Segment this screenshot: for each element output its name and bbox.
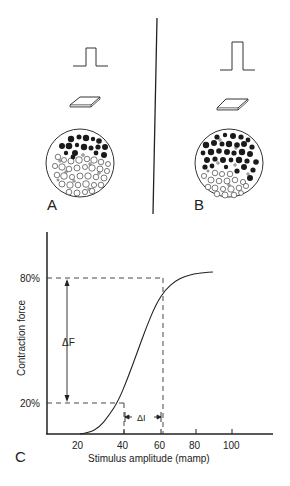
- inactive-fiber: [82, 154, 85, 157]
- active-fiber: [81, 144, 87, 150]
- active-fiber: [208, 149, 214, 155]
- inactive-fiber: [59, 164, 65, 170]
- inactive-fiber: [239, 191, 244, 196]
- inactive-fiber: [85, 173, 91, 179]
- active-fiber: [68, 136, 74, 142]
- inactive-fiber: [69, 174, 74, 179]
- inactive-fiber: [75, 182, 81, 188]
- inactive-fiber: [61, 173, 68, 180]
- active-fiber: [91, 137, 95, 141]
- active-fiber: [241, 164, 247, 170]
- inactive-fiber: [212, 170, 218, 176]
- inactive-fiber: [77, 173, 83, 179]
- active-fiber: [95, 144, 100, 149]
- stimulus-pulse-icon: [220, 42, 255, 70]
- active-fiber: [94, 151, 99, 156]
- x-tick-label-40: 40: [117, 440, 129, 451]
- inactive-fiber: [219, 171, 224, 176]
- inactive-fiber: [234, 164, 236, 166]
- inactive-fiber: [74, 190, 80, 196]
- inactive-fiber: [231, 192, 237, 198]
- inactive-fiber: [55, 154, 61, 160]
- inactive-fiber: [212, 185, 218, 191]
- inactive-fiber: [216, 178, 222, 184]
- active-fiber: [210, 164, 215, 169]
- inactive-fiber: [57, 179, 59, 181]
- inactive-fiber: [214, 191, 220, 197]
- panel-divider: [153, 18, 157, 214]
- muscle-recruitment-figure: A B 20 40 60 80 100 Stimulus amplitude (…: [0, 0, 290, 486]
- panel-c-chart: 20 40 60 80 100 Stimulus amplitude (mamp…: [15, 232, 273, 465]
- active-fiber: [77, 135, 82, 140]
- active-fiber: [226, 141, 232, 147]
- y-tick-label-80: 80%: [20, 273, 40, 284]
- active-fiber: [59, 143, 65, 149]
- electrode-icon: [217, 99, 248, 110]
- inactive-fiber: [243, 183, 248, 188]
- active-fiber: [230, 133, 236, 139]
- inactive-fiber: [201, 173, 206, 178]
- inactive-fiber: [66, 189, 72, 195]
- inactive-fiber: [217, 162, 219, 164]
- inactive-fiber: [88, 188, 90, 190]
- active-fiber: [236, 157, 242, 163]
- x-tick-label-100: 100: [223, 440, 240, 451]
- force-curve: [80, 272, 213, 434]
- active-fiber: [253, 159, 259, 165]
- inactive-fiber: [89, 165, 95, 171]
- active-fiber: [204, 157, 210, 163]
- inactive-fiber: [89, 163, 91, 165]
- active-fiber: [247, 175, 253, 181]
- active-fiber: [216, 148, 222, 154]
- active-fiber: [202, 164, 207, 169]
- active-fiber: [71, 155, 76, 160]
- stimulus-pulse-icon: [73, 48, 108, 66]
- active-fiber: [244, 158, 249, 163]
- y-axis-title: Contraction force: [16, 299, 27, 376]
- y-tick-label-20: 20%: [20, 398, 40, 409]
- active-fiber: [75, 143, 79, 147]
- active-fiber: [220, 142, 225, 147]
- muscle-cross-section-a: [46, 129, 114, 197]
- inactive-fiber: [227, 171, 233, 177]
- inactive-fiber: [76, 157, 83, 164]
- panel-label-b: B: [194, 196, 204, 213]
- active-fiber: [224, 149, 230, 155]
- inactive-fiber: [232, 177, 238, 183]
- inactive-fiber: [208, 177, 214, 183]
- panel-label-c: C: [15, 448, 26, 465]
- inactive-fiber: [91, 182, 96, 187]
- inactive-fiber: [67, 182, 73, 188]
- active-fiber: [241, 141, 247, 147]
- inactive-fiber: [54, 172, 60, 178]
- inactive-fiber: [205, 184, 211, 190]
- inactive-fiber: [207, 170, 209, 172]
- inactive-fiber: [91, 157, 97, 163]
- active-fiber: [249, 144, 254, 149]
- inactive-fiber: [247, 173, 249, 175]
- inactive-fiber: [228, 184, 230, 186]
- x-tick-label-20: 20: [72, 440, 84, 451]
- inactive-fiber: [74, 165, 80, 171]
- active-fiber: [203, 142, 209, 148]
- active-fiber: [211, 140, 217, 146]
- active-fiber: [234, 168, 239, 173]
- active-fiber: [89, 146, 94, 151]
- inactive-fiber: [84, 156, 90, 162]
- inactive-fiber: [236, 185, 242, 191]
- inactive-fiber: [59, 181, 65, 187]
- active-fiber: [214, 134, 219, 139]
- inactive-fiber: [52, 163, 57, 168]
- active-fiber: [238, 134, 243, 139]
- inactive-fiber: [224, 178, 230, 184]
- inactive-fiber: [98, 172, 100, 174]
- inactive-fiber: [59, 160, 61, 162]
- active-fiber: [231, 150, 236, 155]
- inactive-fiber: [62, 158, 67, 163]
- reference-lines: [47, 278, 163, 434]
- active-fiber: [64, 151, 68, 155]
- active-fiber: [83, 135, 89, 141]
- inactive-fiber: [101, 175, 107, 181]
- active-fiber: [212, 156, 217, 161]
- active-fiber: [223, 133, 227, 137]
